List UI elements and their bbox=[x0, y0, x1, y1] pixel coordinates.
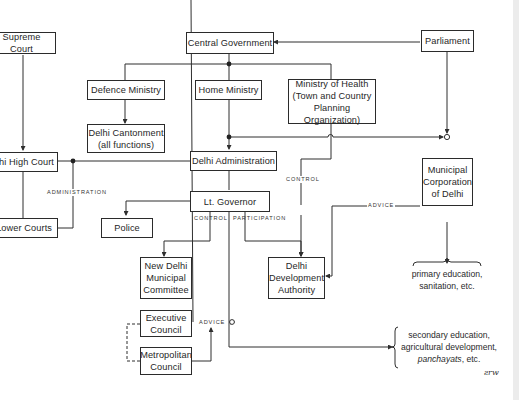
node-delhi-cantonment: Delhi Cantonment (all functions) bbox=[87, 124, 165, 153]
note-mcd-line1: primary education, bbox=[408, 268, 486, 280]
note-admin-line1: secondary education, bbox=[400, 329, 498, 341]
node-delhi-high-court: Delhi High Court bbox=[0, 152, 58, 172]
node-executive-council: Executive Council bbox=[140, 310, 192, 337]
note-mcd-functions: primary education, sanitation, etc. bbox=[408, 268, 486, 292]
node-municipal-corporation: Municipal Corporation of Delhi bbox=[422, 158, 473, 206]
node-central-government: Central Government bbox=[186, 32, 274, 54]
label-control-ltg: CONTROL bbox=[193, 215, 229, 222]
label-advice-mcd: ADVICE bbox=[367, 202, 395, 209]
note-admin-line2: agricultural development, bbox=[400, 341, 498, 353]
note-etc: , etc. bbox=[462, 354, 481, 364]
node-delhi-administration: Delhi Administration bbox=[190, 151, 277, 171]
node-lt-governor: Lt. Governor bbox=[190, 191, 270, 212]
node-parliament: Parliament bbox=[421, 30, 474, 52]
page-edge-shadow bbox=[513, 0, 519, 400]
label-participation: PARTICIPATION bbox=[232, 215, 287, 222]
note-mcd-line2: sanitation, etc. bbox=[408, 280, 486, 292]
node-home-ministry: Home Ministry bbox=[195, 80, 262, 100]
node-metropolitan-council: Metropolitan Council bbox=[140, 347, 192, 375]
node-delhi-development-authority: Delhi Development Authority bbox=[268, 257, 325, 299]
node-new-delhi-municipal-committee: New Delhi Municipal Committee bbox=[140, 257, 192, 299]
note-admin-line3: panchayats, etc. bbox=[400, 353, 498, 365]
note-panchayats: panchayats bbox=[418, 354, 462, 364]
label-control-health: CONTROL bbox=[285, 176, 321, 183]
node-lower-courts: Lower Courts bbox=[0, 218, 58, 238]
delhi-governance-diagram: Supreme Court Central Government Parliam… bbox=[0, 0, 519, 400]
artist-signature: ƨrw bbox=[484, 368, 499, 377]
label-administration: ADMINISTRATION bbox=[46, 189, 108, 196]
label-advice-council: ADVICE bbox=[198, 319, 226, 326]
node-defence-ministry: Defence Ministry bbox=[87, 80, 165, 100]
node-ministry-of-health: Ministry of Health (Town and Country Pla… bbox=[288, 79, 376, 124]
note-admin-functions: secondary education, agricultural develo… bbox=[400, 329, 498, 365]
node-police: Police bbox=[101, 218, 153, 238]
node-supreme-court: Supreme Court bbox=[0, 32, 56, 54]
